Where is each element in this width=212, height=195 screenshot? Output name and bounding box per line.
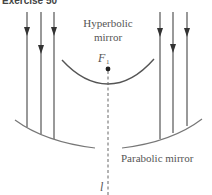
parabolic-mirror-right-arc: [122, 119, 202, 148]
parabolic-mirror-label: Parabolic mirror: [121, 152, 194, 164]
arrow-down-icon: [24, 27, 30, 36]
hyperbolic-mirror-label-line2: mirror: [94, 31, 122, 43]
arrow-down-icon: [170, 44, 176, 53]
focus-point-dot: [106, 67, 111, 72]
focus-label: F: [97, 51, 106, 65]
mirror-diagram: Exercise 50 Hyperbolic mirror: [0, 0, 212, 195]
diagram-canvas: Exercise 50 Hyperbolic mirror: [0, 0, 212, 195]
arrow-down-icon: [38, 45, 44, 54]
arrow-down-icon: [51, 27, 57, 36]
left-incoming-rays: [27, 12, 54, 139]
exercise-title: Exercise 50: [2, 0, 57, 6]
hyperbolic-mirror-label-line1: Hyperbolic: [83, 17, 133, 29]
right-incoming-rays: [160, 12, 187, 139]
focus-subscript: 1: [106, 58, 110, 66]
axis-label: l: [100, 180, 104, 194]
arrow-down-icon: [184, 28, 190, 37]
arrow-down-icon: [157, 28, 163, 37]
